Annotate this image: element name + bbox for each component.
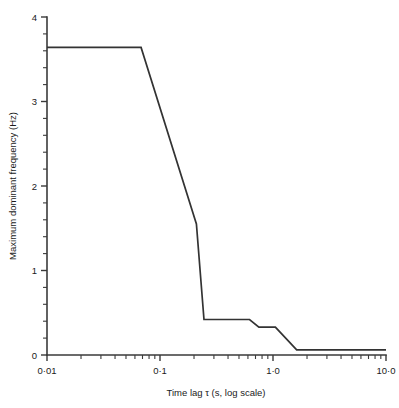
x-axis-tick-label: 0·01 xyxy=(37,365,56,376)
x-axis-title: Time lag τ (s, log scale) xyxy=(167,387,266,398)
x-axis-tick-label: 10·0 xyxy=(376,365,395,376)
y-axis-tick-label: 2 xyxy=(32,181,37,192)
x-axis-tick-labels: 0·010·11·010·0 xyxy=(37,365,395,376)
data-series-line xyxy=(47,47,386,350)
y-axis-tick-label: 0 xyxy=(32,350,37,361)
chart-figure: 0·010·11·010·0 01234 Time lag τ (s, log … xyxy=(0,0,399,408)
x-axis-major-ticks xyxy=(47,355,386,361)
x-axis-tick-label: 0·1 xyxy=(153,365,167,376)
x-axis-tick-label: 1·0 xyxy=(266,365,280,376)
y-axis-tick-label: 1 xyxy=(32,265,37,276)
y-axis-tick-label: 3 xyxy=(32,96,37,107)
y-axis-title: Maximum dominant frequency (Hz) xyxy=(7,112,18,260)
y-axis-tick-labels: 01234 xyxy=(32,12,37,361)
y-axis-tick-label: 4 xyxy=(32,12,37,23)
chart-plot-area: 0·010·11·010·0 01234 Time lag τ (s, log … xyxy=(0,0,399,408)
